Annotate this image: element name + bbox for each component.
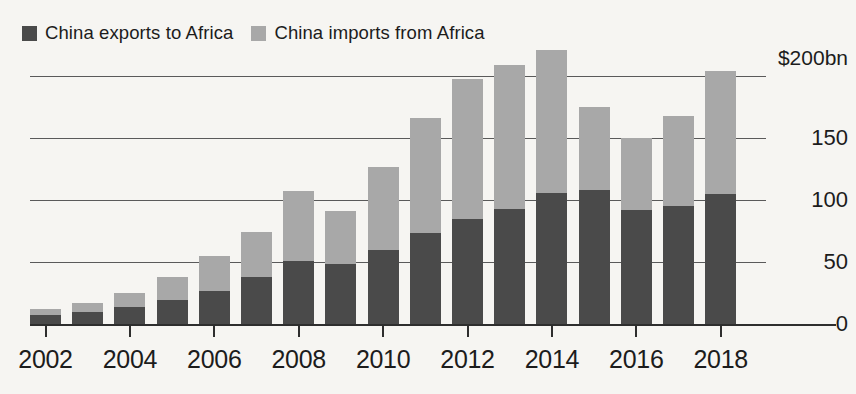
bar-segment-exports[interactable] [72, 312, 103, 324]
bar-group[interactable] [621, 76, 652, 324]
bar-group[interactable] [452, 76, 483, 324]
x-axis-label-2002: 2002 [18, 345, 72, 374]
bar-segment-imports[interactable] [410, 118, 441, 233]
bar-group[interactable] [199, 76, 230, 324]
x-axis-label-2018: 2018 [693, 345, 747, 374]
bar-segment-imports[interactable] [283, 191, 314, 260]
x-axis-tick-2012 [467, 326, 469, 337]
bar-segment-exports[interactable] [494, 209, 525, 324]
chart-legend: China exports to AfricaChina imports fro… [22, 22, 485, 44]
bar-segment-imports[interactable] [705, 71, 736, 194]
bar-group[interactable] [114, 76, 145, 324]
bar-segment-imports[interactable] [199, 256, 230, 291]
x-axis-tick-2006 [213, 326, 215, 337]
x-axis-tick-2016 [635, 326, 637, 337]
bar-segment-exports[interactable] [579, 190, 610, 324]
bar-segment-imports[interactable] [452, 79, 483, 219]
y-axis-label-50: 50 [824, 249, 848, 275]
imports-swatch [251, 26, 266, 41]
bar-segment-exports[interactable] [621, 210, 652, 324]
y-axis-label-100: 100 [811, 187, 848, 213]
bar-segment-exports[interactable] [663, 206, 694, 324]
legend-label: China imports from Africa [274, 22, 484, 44]
y-axis-label-200: $200bn [778, 46, 848, 70]
bar-segment-exports[interactable] [536, 193, 567, 324]
bar-segment-imports[interactable] [494, 65, 525, 209]
bar-segment-imports[interactable] [663, 116, 694, 207]
bar-group[interactable] [663, 76, 694, 324]
bar-series-layer [30, 76, 766, 324]
x-axis-tick-2004 [129, 326, 131, 337]
x-axis-label-2014: 2014 [525, 345, 579, 374]
x-axis-baseline [30, 324, 836, 326]
bar-group[interactable] [410, 76, 441, 324]
bar-segment-imports[interactable] [114, 293, 145, 307]
bar-segment-imports[interactable] [536, 50, 567, 193]
bar-segment-exports[interactable] [705, 194, 736, 324]
bar-segment-exports[interactable] [283, 261, 314, 324]
bar-segment-exports[interactable] [199, 291, 230, 324]
bar-segment-imports[interactable] [579, 107, 610, 190]
china-africa-trade-chart: China exports to AfricaChina imports fro… [0, 0, 856, 394]
bar-segment-imports[interactable] [368, 167, 399, 250]
y-axis-label-0: 0 [836, 311, 848, 337]
bar-group[interactable] [536, 76, 567, 324]
x-axis-label-2006: 2006 [187, 345, 241, 374]
x-axis-tick-2002 [45, 326, 47, 337]
bar-segment-imports[interactable] [30, 309, 61, 315]
x-axis-tick-2010 [382, 326, 384, 337]
x-axis-label-2004: 2004 [103, 345, 157, 374]
x-axis-label-2008: 2008 [271, 345, 325, 374]
bar-segment-exports[interactable] [368, 250, 399, 324]
bar-segment-exports[interactable] [114, 307, 145, 324]
exports-swatch [22, 26, 37, 41]
x-axis-tick-2014 [551, 326, 553, 337]
bar-segment-exports[interactable] [325, 264, 356, 324]
bar-segment-imports[interactable] [621, 138, 652, 210]
bar-segment-exports[interactable] [410, 233, 441, 324]
bar-group[interactable] [494, 76, 525, 324]
bar-group[interactable] [157, 76, 188, 324]
bar-group[interactable] [325, 76, 356, 324]
bar-group[interactable] [368, 76, 399, 324]
bar-group[interactable] [30, 76, 61, 324]
bar-group[interactable] [241, 76, 272, 324]
bar-segment-exports[interactable] [157, 300, 188, 324]
legend-label: China exports to Africa [45, 22, 233, 44]
bar-segment-imports[interactable] [157, 277, 188, 301]
y-axis-label-150: 150 [811, 125, 848, 151]
x-axis-tick-2008 [298, 326, 300, 337]
bar-segment-imports[interactable] [241, 232, 272, 277]
bar-group[interactable] [579, 76, 610, 324]
x-axis-tick-2018 [720, 326, 722, 337]
bar-segment-exports[interactable] [241, 277, 272, 324]
bar-segment-exports[interactable] [30, 315, 61, 324]
bar-group[interactable] [705, 76, 736, 324]
bar-group[interactable] [283, 76, 314, 324]
x-axis-label-2016: 2016 [609, 345, 663, 374]
bar-group[interactable] [72, 76, 103, 324]
bar-segment-imports[interactable] [72, 303, 103, 312]
legend-entry-imports: China imports from Africa [251, 22, 484, 44]
bar-segment-exports[interactable] [452, 219, 483, 324]
x-axis-label-2010: 2010 [356, 345, 410, 374]
bar-segment-imports[interactable] [325, 211, 356, 264]
x-axis-label-2012: 2012 [440, 345, 494, 374]
legend-entry-exports: China exports to Africa [22, 22, 233, 44]
